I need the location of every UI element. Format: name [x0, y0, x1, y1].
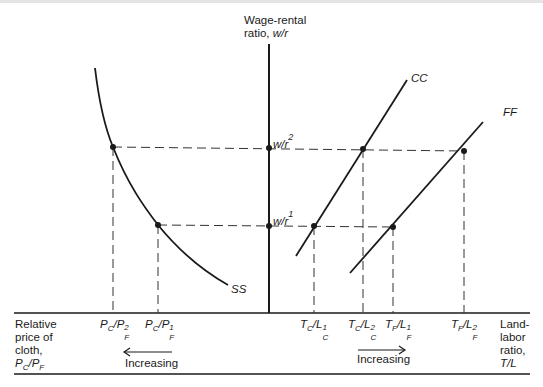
tick-tc-lc2: TC/L2C	[348, 318, 377, 335]
tick-tf-lf2: TF/L2F	[451, 318, 480, 335]
left-label-line2: price of	[15, 331, 57, 344]
right-increasing-label: Increasing	[357, 353, 410, 366]
right-label-line2: labor	[500, 331, 529, 344]
vertical-axis-label-line2: ratio, w/r	[244, 27, 306, 40]
w1-label: w/r1	[273, 211, 293, 228]
cc-point-2	[360, 146, 366, 152]
ff-label: FF	[503, 106, 517, 119]
right-label-line3: ratio,	[500, 344, 529, 357]
tick-pc-pf1: PC/P1F	[145, 318, 176, 335]
horizontal-left-label: Relative price of cloth, PC/PF	[15, 318, 57, 374]
w1-base: w/r	[273, 215, 288, 227]
ss-point-1	[155, 222, 161, 228]
right-label-line4: T/L	[500, 357, 529, 370]
cc-label: CC	[411, 72, 428, 85]
cc-line	[296, 80, 407, 256]
left-label-line4: PC/PF	[15, 357, 57, 374]
ss-point-2	[110, 144, 116, 150]
tick-pc-pf2: PC/P2F	[100, 318, 131, 335]
ff-line	[350, 122, 483, 273]
cc-point-1	[311, 223, 317, 229]
right-label-line1: Land-	[500, 318, 529, 331]
ss-label: SS	[231, 283, 246, 296]
w2-sup: 2	[288, 132, 293, 142]
horizontal-right-label: Land- labor ratio, T/L	[500, 318, 529, 370]
ff-point-1	[390, 224, 396, 230]
w2-label: w/r2	[273, 134, 293, 151]
w1-sup: 1	[288, 209, 293, 219]
left-increasing-label: Increasing	[125, 357, 178, 370]
axis-point-w2	[266, 145, 272, 151]
left-label-line3: cloth,	[15, 344, 57, 357]
label-prefix: ratio,	[244, 27, 273, 39]
vertical-axis-label: Wage-rental ratio, w/r	[244, 14, 306, 40]
ss-curve	[95, 68, 228, 285]
tick-tf-lf1: TF/L1F	[385, 318, 414, 335]
label-var: w/r	[273, 27, 288, 39]
ff-point-2	[461, 148, 467, 154]
left-label-line1: Relative	[15, 318, 57, 331]
tick-tc-lc1: TC/L1C	[300, 318, 329, 335]
w2-base: w/r	[273, 138, 288, 150]
vertical-axis-label-line1: Wage-rental	[244, 14, 306, 27]
axis-point-w1	[266, 223, 272, 229]
